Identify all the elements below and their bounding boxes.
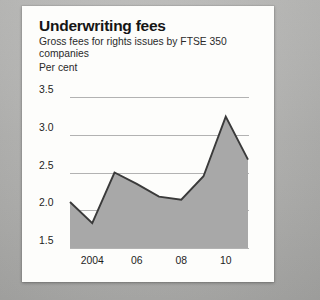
y-axis-tick-labels: 1.52.02.53.03.5 — [39, 84, 54, 246]
chart-card: Underwriting fees Gross fees for rights … — [22, 6, 274, 282]
x-axis-tick-label: 2004 — [81, 255, 104, 266]
x-axis-tick-label: 06 — [131, 255, 143, 266]
x-axis-tick-label: 08 — [175, 255, 187, 266]
area-chart: 1.52.02.53.03.5 2004060810 — [22, 6, 274, 282]
y-axis-tick-label: 2.0 — [39, 197, 54, 208]
area-fill — [70, 117, 248, 248]
x-axis-tick-label: 10 — [220, 255, 232, 266]
plot-area: 1.52.02.53.03.5 2004060810 — [22, 6, 274, 282]
y-axis-tick-label: 1.5 — [39, 235, 54, 246]
x-axis-tick-labels: 2004060810 — [81, 255, 232, 266]
y-axis-tick-label: 2.5 — [39, 160, 54, 171]
area-series — [70, 117, 248, 248]
y-axis-tick-label: 3.0 — [39, 122, 54, 133]
y-axis-tick-label: 3.5 — [39, 84, 54, 95]
